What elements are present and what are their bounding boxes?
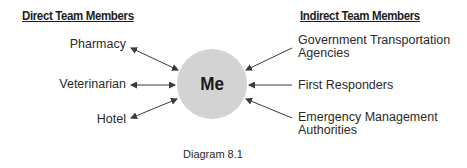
arrow-emergency-management — [246, 99, 292, 118]
diagram-caption: Diagram 8.1 — [183, 148, 243, 160]
center-circle: Me — [177, 49, 247, 119]
center-label: Me — [200, 73, 224, 95]
arrow-government-transportation — [246, 48, 292, 70]
arrow-hotel — [131, 99, 177, 118]
arrow-pharmacy — [131, 48, 178, 70]
